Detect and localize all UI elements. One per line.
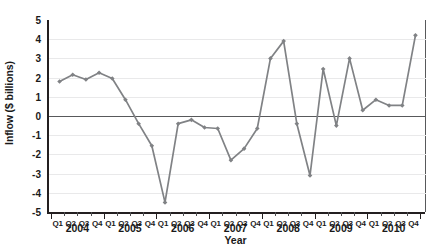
data-point-marker: [400, 103, 405, 108]
inflow-line-chart: Inflow ($ billions) 543210-1-2-3-4-5 Q1Q…: [0, 0, 432, 247]
x-year-label: 2007: [224, 222, 247, 234]
y-tick-label: -3: [32, 168, 41, 179]
data-point-marker: [176, 121, 181, 126]
y-axis-title-text: Inflow ($ billions): [3, 61, 15, 145]
plot-inner: [49, 20, 426, 212]
x-year-label: 2006: [171, 222, 194, 234]
x-year-label: 2004: [66, 222, 89, 234]
y-tick-label: 0: [35, 111, 41, 122]
y-tick-label: 5: [35, 15, 41, 26]
plot-area: [47, 20, 426, 212]
series-line: [60, 35, 416, 202]
y-tick-label: -2: [32, 149, 41, 160]
data-point-marker: [215, 126, 220, 131]
y-tick-label: 1: [35, 91, 41, 102]
data-point-marker: [413, 33, 418, 38]
x-axis-title: Year: [47, 234, 424, 246]
y-tick-label: 2: [35, 72, 41, 83]
data-series: [49, 20, 426, 212]
y-tick-label: -4: [32, 187, 41, 198]
y-axis-title: Inflow ($ billions): [0, 0, 18, 205]
y-tick-label: 3: [35, 53, 41, 64]
data-point-marker: [308, 173, 313, 178]
data-point-marker: [347, 56, 352, 61]
x-axis-quarter-labels: Q1Q2Q3Q4Q1Q2Q3Q4Q1Q2Q3Q4Q1Q2Q3Q4Q1Q2Q3Q4…: [47, 203, 424, 217]
y-tick-label: -5: [32, 207, 41, 218]
x-year-label: 2010: [382, 222, 405, 234]
y-axis-tick-labels: 543210-1-2-3-4-5: [18, 0, 44, 247]
y-tick-label: 4: [35, 34, 41, 45]
data-point-marker: [321, 67, 326, 72]
data-point-marker: [295, 121, 300, 126]
x-year-label: 2005: [118, 222, 141, 234]
y-tick-label: -1: [32, 130, 41, 141]
x-year-label: 2009: [329, 222, 352, 234]
x-year-label: 2008: [277, 222, 300, 234]
data-point-marker: [334, 123, 339, 128]
